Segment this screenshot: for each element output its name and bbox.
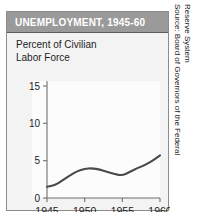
- svg-text:1960: 1960: [148, 205, 170, 212]
- source-line-2: Reserve System: [183, 4, 193, 63]
- plot-background: [32, 81, 160, 198]
- svg-text:0: 0: [34, 193, 40, 204]
- chart-subtitle: Percent of Civilian Labor Force: [16, 39, 156, 64]
- chart-card: UNEMPLOYMENT, 1945-60 Percent of Civilia…: [6, 11, 169, 211]
- svg-text:1955: 1955: [111, 205, 135, 212]
- svg-text:1950: 1950: [73, 205, 97, 212]
- page-title: UNEMPLOYMENT, 1945-60: [7, 17, 145, 28]
- svg-text:1945: 1945: [35, 205, 59, 212]
- svg-text:5: 5: [34, 155, 40, 166]
- source-note: Source: Board of Governors of the Federa…: [170, 0, 202, 221]
- chart-figure: UNEMPLOYMENT, 1945-60 Percent of Civilia…: [0, 0, 202, 221]
- plot-area: 0510151945195019551960: [7, 67, 170, 212]
- chart-title-bar: UNEMPLOYMENT, 1945-60: [7, 12, 168, 33]
- svg-text:15: 15: [29, 81, 41, 92]
- line-chart-svg: 0510151945195019551960: [7, 67, 170, 212]
- source-line-1: Source: Board of Governors of the Federa…: [173, 4, 183, 155]
- svg-text:10: 10: [29, 118, 41, 129]
